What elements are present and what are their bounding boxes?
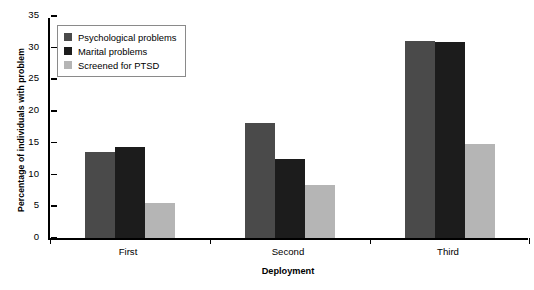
legend-swatch-icon: [64, 33, 72, 41]
y-tick-label: 5: [34, 199, 39, 210]
y-tick-mark: [51, 15, 57, 17]
bar[interactable]: [405, 41, 435, 238]
y-tick-label: 25: [28, 72, 39, 83]
legend: Psychological problemsMarital problemsSc…: [57, 25, 186, 77]
legend-item[interactable]: Screened for PTSD: [64, 58, 176, 72]
x-tick-mark: [529, 238, 530, 244]
x-tick-label: First: [48, 246, 208, 257]
legend-swatch-icon: [64, 61, 72, 69]
bar[interactable]: [85, 152, 115, 238]
x-tick-mark: [50, 238, 51, 244]
bar[interactable]: [245, 123, 275, 238]
legend-item[interactable]: Marital problems: [64, 44, 176, 58]
bar[interactable]: [115, 147, 145, 238]
y-tick-label: 35: [28, 9, 39, 20]
x-tick-mark: [210, 238, 211, 244]
legend-label: Screened for PTSD: [78, 60, 159, 71]
bar[interactable]: [305, 185, 335, 238]
y-tick-label: 15: [28, 136, 39, 147]
legend-label: Psychological problems: [78, 32, 176, 43]
bar-group: [245, 18, 335, 238]
y-tick-label: 10: [28, 168, 39, 179]
y-tick-label: 30: [28, 41, 39, 52]
bar[interactable]: [465, 144, 495, 239]
bar[interactable]: [275, 159, 305, 238]
x-tick-mark: [370, 238, 371, 244]
bar[interactable]: [145, 203, 175, 238]
x-tick-label: Third: [368, 246, 528, 257]
y-tick-label: 0: [34, 231, 39, 242]
bar-group: [405, 18, 495, 238]
y-tick-label: 20: [28, 104, 39, 115]
bar-chart: Percentage of individuals with problem 0…: [0, 0, 534, 290]
y-axis-title: Percentage of individuals with problem: [16, 10, 26, 250]
x-axis-title: Deployment: [48, 266, 528, 276]
legend-label: Marital problems: [78, 46, 147, 57]
legend-swatch-icon: [64, 47, 72, 55]
x-tick-label: Second: [208, 246, 368, 257]
bar[interactable]: [435, 42, 465, 238]
legend-item[interactable]: Psychological problems: [64, 30, 176, 44]
